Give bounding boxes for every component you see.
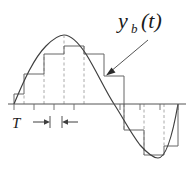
figure-container: T y b (t) — [0, 0, 191, 170]
signal-label-subscript: b — [131, 21, 138, 36]
signal-label-y: y — [116, 8, 128, 33]
waveform-diagram: T y b (t) — [0, 0, 191, 170]
figure-background — [0, 0, 191, 170]
signal-label-argument: (t) — [141, 8, 162, 33]
